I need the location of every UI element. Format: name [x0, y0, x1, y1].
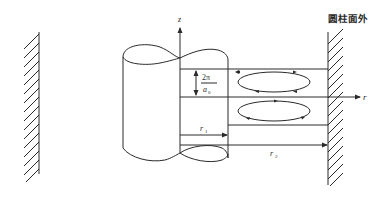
r2-sub: 2: [275, 154, 278, 159]
r-axis-label: r: [363, 92, 367, 102]
outer-cylinder-label: 圆柱面外: [328, 13, 368, 24]
r2-label: r: [270, 149, 274, 158]
wavelength-denominator-sub: 0: [208, 90, 211, 95]
r1-sub: 1: [205, 129, 208, 134]
inner-radius-dimension: r 1: [180, 124, 227, 135]
r1-label: r: [200, 124, 204, 133]
z-axis-label: z: [177, 15, 182, 24]
wavelength-denominator: a: [203, 85, 207, 94]
upper-vortex-cell: [235, 70, 310, 93]
right-wall: [328, 29, 343, 186]
z-axis: z: [177, 15, 182, 153]
wavelength-dimension: 2π a 0: [196, 71, 217, 95]
left-wall-hatching: [24, 34, 39, 182]
outer-radius-dimension: r 2: [180, 145, 327, 159]
wavelength-numerator: 2π: [202, 73, 210, 82]
right-wall-hatching: [328, 29, 343, 186]
inner-cylinder: [123, 45, 228, 162]
taylor-couette-diagram: z r 2π a 0 r 1 r 2: [0, 0, 389, 198]
lower-vortex-cell: [238, 100, 310, 122]
left-wall: [24, 32, 39, 182]
